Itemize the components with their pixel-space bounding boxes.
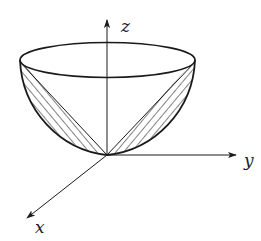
x-axis: [27, 155, 107, 218]
y-axis-label: y: [243, 150, 254, 170]
x-axis-label: x: [35, 217, 45, 237]
paraboloid-diagram: z y x: [0, 0, 261, 241]
z-axis-label: z: [120, 16, 131, 36]
